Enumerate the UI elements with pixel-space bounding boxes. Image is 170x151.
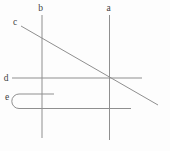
geometry-figure: bacde	[0, 0, 170, 151]
label-a: a	[106, 3, 111, 13]
label-e: e	[5, 92, 9, 102]
label-c: c	[13, 17, 17, 27]
figure-container: bacde	[0, 0, 170, 151]
curve-e	[12, 94, 131, 109]
label-d: d	[4, 73, 9, 83]
label-b: b	[38, 3, 43, 13]
